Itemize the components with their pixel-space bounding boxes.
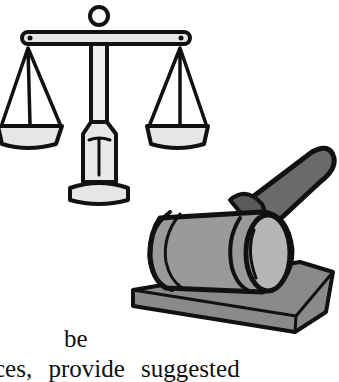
document-text-line: ces, provide suggested	[0, 356, 240, 381]
legal-clipart	[0, 0, 339, 335]
gavel-icon	[133, 148, 334, 332]
document-text-line: be	[64, 326, 88, 351]
scales-of-justice-icon	[0, 7, 208, 204]
